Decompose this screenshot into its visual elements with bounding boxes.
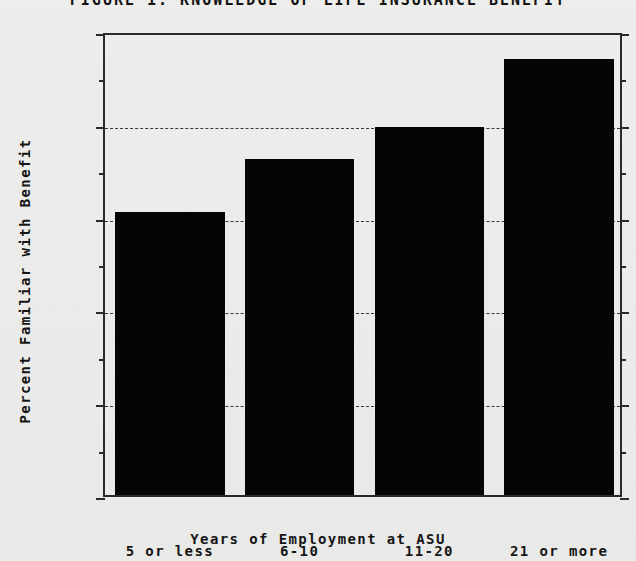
bar	[115, 212, 225, 495]
y-axis-tick	[96, 405, 105, 407]
y-axis-tick	[620, 34, 629, 36]
y-axis-minor-tick	[620, 359, 626, 361]
plot-area: 0204060801005 or less6-1011-2021 or more	[103, 33, 622, 497]
y-axis-tick	[620, 312, 629, 314]
y-axis-minor-tick	[620, 452, 626, 454]
y-axis-tick	[96, 127, 105, 129]
y-axis-minor-tick	[620, 266, 626, 268]
y-axis-minor-tick	[99, 173, 105, 175]
y-axis-tick	[620, 127, 629, 129]
y-axis-minor-tick	[620, 80, 626, 82]
bar	[504, 59, 614, 495]
y-axis-tick	[96, 34, 105, 36]
figure-title: FIGURE 1. KNOWLEDGE OF LIFE INSURANCE BE…	[0, 0, 636, 9]
y-axis-title: Percent Familiar with Benefit	[14, 0, 36, 561]
y-axis-minor-tick	[99, 452, 105, 454]
x-axis-title: Years of Employment at ASU	[0, 531, 636, 547]
y-axis-minor-tick	[99, 266, 105, 268]
y-axis-minor-tick	[99, 80, 105, 82]
bar	[245, 159, 355, 495]
y-axis-tick	[96, 498, 105, 500]
y-axis-title-text: Percent Familiar with Benefit	[17, 138, 33, 423]
y-axis-minor-tick	[99, 359, 105, 361]
y-axis-tick	[96, 312, 105, 314]
y-axis-tick	[620, 220, 629, 222]
y-axis-tick	[96, 220, 105, 222]
y-axis-tick	[620, 498, 629, 500]
y-axis-minor-tick	[620, 173, 626, 175]
bar	[375, 127, 485, 495]
y-axis-tick	[620, 405, 629, 407]
